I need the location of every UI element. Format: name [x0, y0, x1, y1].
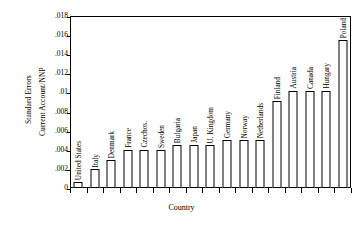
bar	[305, 91, 314, 188]
bar-category-label: Czechos.	[140, 121, 149, 148]
bar-category-label: Germany	[223, 111, 232, 138]
bar-category-label: Hungary	[322, 63, 331, 89]
bar	[338, 40, 347, 188]
bar	[289, 91, 298, 188]
bar-category-label: Norway	[239, 115, 248, 139]
bar-category-label: Poland	[338, 18, 347, 38]
y-tick-label: .016	[55, 31, 68, 39]
bar-category-label: Italy	[90, 154, 99, 167]
x-tick-mark	[136, 188, 137, 193]
bar-slot: Sweden	[153, 16, 170, 188]
x-tick-mark	[301, 188, 302, 193]
x-tick-mark	[252, 188, 253, 193]
bar	[189, 145, 198, 188]
bar-slot: United States	[70, 16, 87, 188]
bar-category-label: Netherlands	[256, 103, 265, 138]
bar-category-label: United States	[74, 141, 83, 180]
bar-slot: Japan	[186, 16, 203, 188]
x-tick-mark	[103, 188, 104, 193]
bar-slot: Finland	[268, 16, 285, 188]
bar	[156, 150, 165, 188]
x-axis-ticks	[70, 188, 351, 194]
x-tick-mark	[334, 188, 335, 193]
x-tick-mark	[87, 188, 88, 193]
bar-slot: Italy	[87, 16, 104, 188]
y-tick-label: .006	[55, 127, 68, 135]
x-tick-mark	[285, 188, 286, 193]
y-tick-label: .012	[55, 69, 68, 77]
bar-slot: Austria	[285, 16, 302, 188]
y-tick-label: .004	[55, 146, 68, 154]
x-axis-title: Country	[0, 203, 363, 212]
y-tick-label: .014	[55, 50, 68, 58]
bar-slot: Poland	[334, 16, 351, 188]
x-tick-mark	[235, 188, 236, 193]
x-tick-mark	[219, 188, 220, 193]
bar	[256, 140, 265, 188]
bar	[173, 145, 182, 188]
y-tick-label: .018	[55, 12, 68, 20]
bar-slot: Germany	[219, 16, 236, 188]
bar-category-label: Bulgaria	[173, 118, 182, 143]
x-tick-mark	[202, 188, 203, 193]
bar	[272, 101, 281, 188]
bar	[239, 140, 248, 188]
y-tick-label: .002	[55, 165, 68, 173]
bar-slot: Denmark	[103, 16, 120, 188]
bar	[107, 160, 116, 188]
x-tick-mark	[120, 188, 121, 193]
y-tick-label: .01	[59, 88, 68, 96]
bar	[322, 91, 331, 188]
x-tick-mark	[318, 188, 319, 193]
bar-category-label: U. Kingdom	[206, 107, 215, 144]
x-tick-mark	[70, 188, 71, 193]
x-tick-mark	[153, 188, 154, 193]
bar-slot: Norway	[235, 16, 252, 188]
bar-slot: France	[120, 16, 137, 188]
bar	[90, 169, 99, 188]
bar-category-label: Sweden	[156, 125, 165, 148]
y-axis-title-standard-errors: Standard Errors	[24, 54, 33, 146]
bar-series: United StatesItalyDenmarkFranceCzechos.S…	[70, 16, 351, 188]
bar-chart: Standard Errors Current Account/NNP 0.00…	[0, 0, 363, 230]
bar-slot: Bulgaria	[169, 16, 186, 188]
x-tick-mark	[169, 188, 170, 193]
bar-slot: Canada	[301, 16, 318, 188]
x-tick-mark	[186, 188, 187, 193]
bar-category-label: Finland	[272, 77, 281, 99]
bar-slot: U. Kingdom	[202, 16, 219, 188]
bar-category-label: France	[123, 128, 132, 148]
y-tick-label: 0	[64, 184, 68, 192]
x-tick-mark	[268, 188, 269, 193]
bar	[206, 145, 215, 188]
bar-slot: Netherlands	[252, 16, 269, 188]
bar	[74, 182, 83, 188]
bar	[123, 150, 132, 188]
y-tick-label: .008	[55, 108, 68, 116]
bar-category-label: Japan	[189, 126, 198, 143]
bar-category-label: Denmark	[107, 131, 116, 158]
x-tick-mark	[351, 188, 352, 193]
bar-slot: Hungary	[318, 16, 335, 188]
bar	[223, 140, 232, 188]
bar-category-label: Canada	[305, 67, 314, 89]
bar-slot: Czechos.	[136, 16, 153, 188]
bar	[140, 150, 149, 188]
bar-category-label: Austria	[289, 67, 298, 88]
y-axis-tick-labels: 0.002.004.006.008.01.012.014.016.018	[44, 11, 68, 193]
